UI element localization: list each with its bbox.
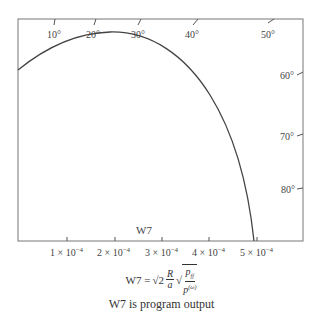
angle-label-50: 50° [261,29,275,40]
x-tick-4: 4 × 10−4 [192,246,226,258]
angle-label-20: 20° [86,29,100,40]
formula-sqrt2: √2 [152,274,164,286]
right-angle-ticks [297,72,303,189]
w7-curve [18,32,254,241]
x-axis-ticks [67,237,257,241]
x-tick-1: 1 × 10−4 [50,246,84,258]
angle-label-10: 10° [47,29,61,40]
x-axis-labels: 1 × 10−4 2 × 10−4 3 × 10−4 4 × 10−4 5 × … [50,246,274,258]
formula-fraction: R a [166,269,174,290]
plot-frame [18,19,303,241]
angle-label-70: 70° [280,131,294,142]
x-tick-3: 3 × 10−4 [145,246,179,258]
formula: W7 = √2 R a √ pff p(ω) [0,264,323,295]
angle-label-30: 30° [131,29,145,40]
x-tick-5: 5 × 10−4 [240,246,274,258]
caption: W7 is program output [0,297,323,312]
top-angle-ticks [54,19,274,25]
formula-lhs: W7 = [126,274,151,286]
angle-label-60: 60° [280,70,294,81]
angle-label-40: 40° [185,29,199,40]
angle-label-80: 80° [281,184,295,195]
x-tick-2: 2 × 10−4 [97,246,131,258]
formula-sqrt: √ pff p(ω) [176,264,197,295]
curve-label: W7 [136,224,152,236]
